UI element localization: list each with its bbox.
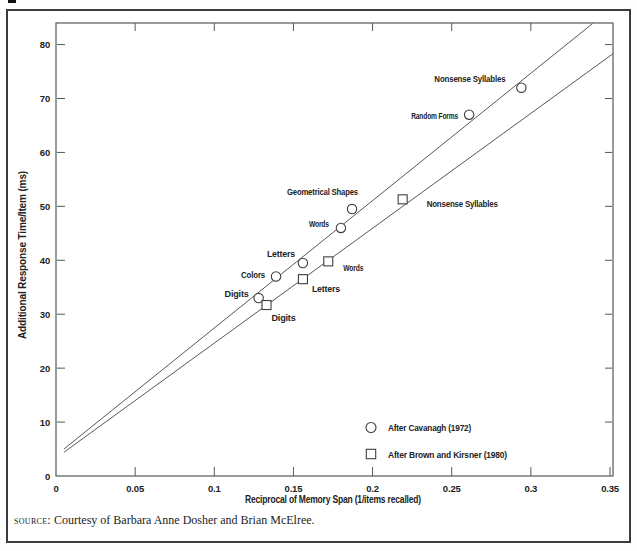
data-point-circle bbox=[517, 83, 526, 92]
point-label: Digits bbox=[225, 288, 249, 299]
chart-canvas: 00.050.10.150.20.250.30.3501020304050607… bbox=[0, 0, 637, 551]
x-tick-label: 0.15 bbox=[285, 483, 304, 494]
data-point-circle bbox=[336, 223, 345, 232]
point-label: Nonsense Syllables bbox=[427, 198, 498, 209]
point-label: Colors bbox=[241, 269, 265, 280]
x-tick-label: 0.25 bbox=[443, 483, 462, 494]
point-label: Words bbox=[309, 218, 329, 229]
y-tick-label: 0 bbox=[45, 471, 50, 482]
fit-line-brown-kirsner bbox=[64, 54, 613, 453]
y-tick-label: 30 bbox=[40, 309, 50, 320]
x-tick-label: 0.05 bbox=[126, 483, 145, 494]
legend-label: After Cavanagh (1972) bbox=[388, 422, 471, 433]
data-point-square bbox=[398, 195, 407, 204]
y-tick-label: 20 bbox=[40, 363, 50, 374]
point-label: Letters bbox=[267, 248, 295, 259]
y-tick-label: 70 bbox=[40, 93, 50, 104]
x-tick-label: 0 bbox=[53, 483, 58, 494]
point-label: Random Forms bbox=[411, 110, 458, 121]
source-note: source: Courtesy of Barbara Anne Dosher … bbox=[14, 513, 315, 528]
data-point-circle bbox=[298, 258, 307, 267]
point-label: Nonsense Syllables bbox=[434, 73, 505, 84]
data-point-circle bbox=[464, 110, 473, 119]
y-axis-title: Additional Response Time/Item (ms) bbox=[17, 171, 28, 339]
legend-square-marker bbox=[366, 449, 375, 458]
y-tick-label: 40 bbox=[40, 255, 50, 266]
legend-circle-marker bbox=[366, 423, 376, 433]
x-tick-label: 0.2 bbox=[366, 483, 379, 494]
y-tick-label: 50 bbox=[40, 201, 50, 212]
point-label: Geometrical Shapes bbox=[287, 186, 358, 197]
data-point-circle bbox=[271, 272, 280, 281]
data-point-square bbox=[262, 301, 271, 310]
data-point-circle bbox=[347, 204, 356, 213]
figure-page: 00.050.10.150.20.250.30.3501020304050607… bbox=[0, 0, 637, 551]
x-tick-label: 0.1 bbox=[208, 483, 222, 494]
source-label: source: bbox=[14, 513, 51, 527]
point-label: Letters bbox=[312, 283, 340, 294]
plot-frame bbox=[56, 23, 613, 476]
fit-line-cavanagh bbox=[64, 24, 593, 449]
y-tick-label: 60 bbox=[40, 147, 50, 158]
data-point-square bbox=[298, 275, 307, 284]
y-tick-label: 80 bbox=[40, 39, 50, 50]
source-text: Courtesy of Barbara Anne Dosher and Bria… bbox=[51, 513, 315, 527]
point-label: Digits bbox=[272, 312, 296, 323]
y-tick-label: 10 bbox=[40, 417, 50, 428]
x-axis-title: Reciprocal of Memory Span (1/items recal… bbox=[245, 494, 421, 505]
x-tick-label: 0.35 bbox=[601, 483, 620, 494]
point-label: Words bbox=[343, 262, 363, 273]
x-tick-label: 0.3 bbox=[525, 483, 538, 494]
data-point-square bbox=[324, 257, 333, 266]
legend-label: After Brown and Kirsner (1980) bbox=[388, 449, 507, 460]
